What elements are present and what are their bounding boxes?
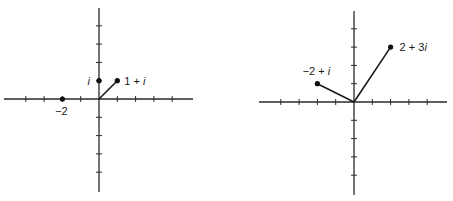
complex-plane-diagram: i1 + i−2 2 + 3i−2 + i xyxy=(0,0,453,201)
point-2-plus-3i-label: 2 + 3i xyxy=(400,41,428,53)
point-minus-2-plus-i-label: −2 + i xyxy=(303,65,331,77)
point-1-plus-i xyxy=(115,78,120,83)
point-i xyxy=(96,78,101,83)
point-minus-2-plus-i xyxy=(315,81,320,86)
point-2-plus-3i xyxy=(388,45,393,50)
left-complex-plane: i1 + i−2 xyxy=(4,8,193,192)
right-complex-plane: 2 + 3i−2 + i xyxy=(259,11,447,195)
point-1-plus-i-vector xyxy=(99,81,117,99)
point-i-label: i xyxy=(88,75,91,87)
point-minus-2-label: −2 xyxy=(55,105,68,117)
point-1-plus-i-label: 1 + i xyxy=(124,75,146,87)
point-minus-2 xyxy=(60,96,65,101)
point-2-plus-3i-vector xyxy=(354,47,391,102)
